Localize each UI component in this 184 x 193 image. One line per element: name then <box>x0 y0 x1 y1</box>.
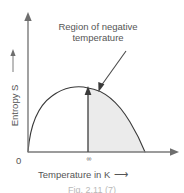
negative-temperature-shaded-region <box>88 88 145 152</box>
annotation-line-2: temperature <box>48 33 148 44</box>
x-axis-label: Temperature in K⟶ <box>38 170 128 181</box>
y-axis-title-direction-arrowhead <box>10 49 15 56</box>
x-axis-direction-arrow-icon: ⟶ <box>110 169 128 180</box>
x-tick-label-infinity: ∞ <box>82 155 96 163</box>
figure-caption: Fig. 2.11 (7) <box>0 185 184 193</box>
annotation-leader-arrowhead <box>98 82 104 92</box>
origin-label: 0 <box>16 156 21 167</box>
x-axis-label-text: Temperature in K <box>38 169 110 180</box>
y-axis-arrowhead <box>24 12 31 21</box>
negative-temperature-annotation: Region of negative temperature <box>48 22 148 44</box>
y-axis-label: Entropy S <box>10 70 21 140</box>
annotation-leader-line <box>101 51 126 86</box>
x-axis-arrowhead <box>170 148 179 155</box>
entropy-temperature-figure: Region of negative temperature Entropy S… <box>0 0 184 193</box>
